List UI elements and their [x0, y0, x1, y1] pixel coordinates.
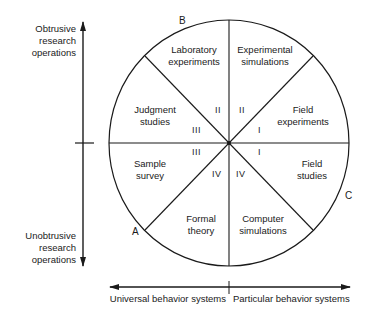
- center-point: [227, 141, 231, 145]
- point-a-label: A: [132, 226, 139, 237]
- unobtrusive-label: Unobtrusive research operations: [25, 230, 76, 266]
- quadrant-mark-iii-upper: III: [192, 125, 201, 135]
- quadrant-mark-ii-right: II: [239, 105, 245, 115]
- vertical-axis: [75, 22, 94, 266]
- quadrant-mark-iv-right: IV: [236, 169, 246, 179]
- sector-sample-survey: Sample survey: [134, 158, 166, 182]
- particular-behavior-label: Particular behavior systems: [233, 293, 350, 305]
- quadrant-mark-i-upper: I: [258, 125, 261, 135]
- quadrant-mark-ii-left: II: [215, 105, 221, 115]
- point-c-label: C: [345, 190, 352, 201]
- point-b-label: B: [179, 15, 186, 26]
- sector-judgment-studies: Judgment studies: [134, 104, 176, 128]
- quadrant-mark-iii-lower: III: [192, 147, 201, 157]
- sector-field-studies: Field studies: [297, 158, 327, 182]
- sector-experimental-simulations: Experimental simulations: [237, 44, 292, 68]
- sector-computer-simulations: Computer simulations: [239, 213, 287, 237]
- quadrant-mark-iv-left: IV: [212, 169, 222, 179]
- obtrusive-label: Obtrusive research operations: [32, 23, 76, 59]
- sector-field-experiments: Field experiments: [277, 104, 329, 128]
- sector-laboratory-experiments: Laboratory experiments: [168, 44, 220, 68]
- sector-formal-theory: Formal theory: [186, 213, 216, 237]
- universal-behavior-label: Universal behavior systems: [110, 293, 226, 305]
- quadrant-mark-i-lower: I: [258, 147, 261, 157]
